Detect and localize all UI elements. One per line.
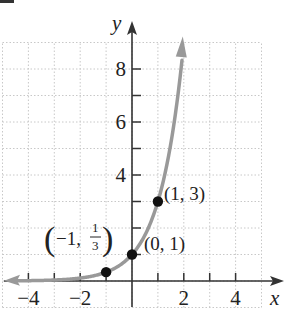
x-tick-label: −4	[17, 286, 40, 310]
y-tick-label: 4	[116, 163, 127, 187]
x-axis-label: x	[269, 286, 280, 310]
svg-text:(: (	[44, 220, 55, 258]
y-tick-label: 6	[116, 110, 127, 134]
data-point	[153, 196, 163, 206]
y-axis-label: y	[110, 11, 122, 35]
clipped-heading-fragment	[0, 0, 14, 3]
point-label-0-1: (0, 1)	[144, 233, 185, 255]
svg-text:1: 1	[92, 220, 99, 235]
axes	[4, 21, 284, 307]
svg-text:−1,: −1,	[56, 228, 81, 249]
curve-arrow-up-icon	[176, 37, 187, 58]
point-label-neg1: ( −1, 1 3 )	[44, 220, 113, 258]
x-tick-label: −2	[69, 286, 91, 310]
x-tick-label: 2	[179, 286, 190, 310]
y-tick-label: 8	[116, 57, 127, 81]
exponential-graph: −4−224468 x y ( −1, 1 3 ) (0, 1) (1, 3)	[0, 0, 287, 321]
svg-text:3: 3	[92, 238, 99, 253]
x-tick-label: 4	[230, 286, 241, 310]
data-point	[101, 267, 111, 277]
data-point	[127, 249, 137, 259]
point-label-1-3: (1, 3)	[164, 183, 205, 205]
tick-labels: −4−224468	[17, 57, 241, 310]
svg-text:): )	[102, 220, 113, 258]
